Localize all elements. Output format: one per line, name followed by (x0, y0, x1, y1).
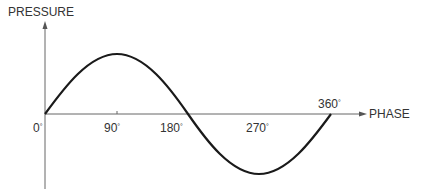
tick-label-90: 90° (104, 122, 120, 134)
tick-label-180: 180° (160, 122, 183, 134)
waveform-diagram (0, 0, 424, 195)
tick-label-360: 360° (318, 98, 341, 110)
tick-label-270: 270° (246, 122, 269, 134)
x-axis-label: PHASE (369, 108, 410, 120)
tick-label-0: 0° (33, 122, 43, 134)
pressure-axis-arrow-icon (43, 21, 48, 29)
phase-axis-arrow-icon (359, 112, 367, 117)
y-axis-label: PRESSURE (8, 6, 74, 18)
